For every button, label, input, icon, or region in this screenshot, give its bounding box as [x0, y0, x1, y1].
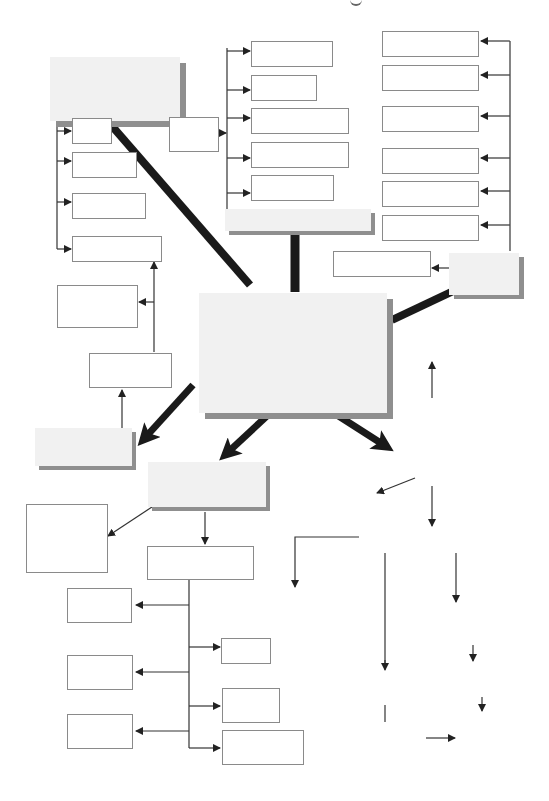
node-consequence: [251, 108, 349, 134]
node-activities: [251, 75, 317, 101]
arrow-to-how-to: [225, 415, 268, 455]
arrow-to-matter: [337, 415, 387, 447]
node-values: [222, 688, 280, 723]
arrow-to-measure: [143, 385, 193, 440]
node-examples-of-mission-statements: [50, 57, 180, 121]
node-refocusing: [382, 31, 479, 57]
node-controlling: [382, 181, 479, 207]
node-how-to: [148, 462, 266, 507]
node-british-airways: [72, 236, 162, 262]
node-providing: [382, 106, 479, 132]
node-defining: [382, 148, 479, 174]
node-sharing: [382, 215, 479, 241]
node-boundary: [251, 142, 349, 168]
node-kennedy: [72, 193, 146, 219]
node-startrek: [72, 152, 137, 178]
node-vision: [221, 638, 271, 664]
node-creating: [382, 65, 479, 91]
node-challenges: [222, 730, 304, 765]
node-measure-of-performance: [35, 428, 132, 466]
node-sold-to-employees: [26, 504, 108, 573]
mind-map-canvas: [0, 0, 549, 801]
node-cascades: [67, 655, 133, 690]
node-cia: [72, 118, 112, 144]
node-bart-and-tabone: [333, 251, 431, 277]
node-how-to-measure: [57, 285, 138, 328]
node-what-should-be-included: [225, 209, 371, 231]
page-header-fragment: [350, 0, 362, 6]
node-taskforce: [147, 546, 254, 580]
node-assumption: [251, 175, 334, 201]
node-beneficiaries: [251, 41, 333, 67]
node-central-topic: [199, 293, 387, 413]
node-why-have-one: [449, 253, 519, 295]
node-goals: [67, 588, 132, 623]
node-revise: [67, 714, 133, 749]
node-joyce: [169, 117, 219, 152]
node-empty-of-meaning: [89, 353, 172, 388]
